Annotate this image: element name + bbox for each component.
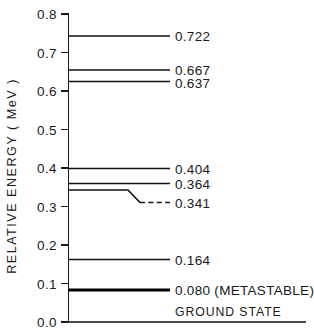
level-label-0.341: 0.341 [175, 196, 210, 211]
ground-state-label: GROUND STATE [175, 305, 282, 319]
tick-label-0.0: 0.0 [37, 315, 57, 330]
tick-label-0.6: 0.6 [37, 84, 57, 99]
level-label-0.080-metastable: 0.080 (METASTABLE) [175, 283, 314, 298]
tick-label-0.5: 0.5 [37, 123, 57, 138]
level-label-0.364: 0.364 [175, 177, 210, 192]
level-diagram-svg: 0.8 0.7 0.6 0.5 0.4 0.3 0.2 0.1 0.0 RELA… [0, 0, 314, 336]
level-label-0.164: 0.164 [175, 253, 210, 268]
tick-label-0.1: 0.1 [37, 277, 57, 292]
tick-label-0.2: 0.2 [37, 238, 57, 253]
level-line-0.341-solid-segment [69, 190, 141, 203]
energy-level-diagram: 0.8 0.7 0.6 0.5 0.4 0.3 0.2 0.1 0.0 RELA… [0, 0, 314, 336]
tick-label-0.4: 0.4 [37, 161, 57, 176]
tick-label-0.7: 0.7 [37, 46, 57, 61]
y-axis-title: RELATIVE ENERGY ( MeV ) [5, 78, 19, 274]
level-label-0.722: 0.722 [175, 29, 210, 44]
level-label-0.637: 0.637 [175, 76, 210, 91]
tick-label-0.8: 0.8 [37, 7, 57, 22]
level-label-0.404: 0.404 [175, 162, 210, 177]
tick-label-0.3: 0.3 [37, 200, 57, 215]
